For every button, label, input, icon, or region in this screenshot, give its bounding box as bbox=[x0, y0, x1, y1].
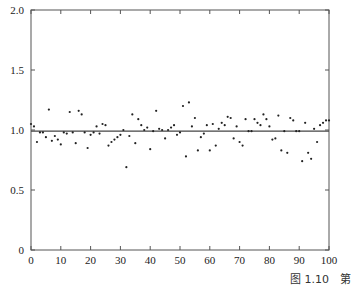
data-point bbox=[164, 137, 166, 139]
data-point bbox=[283, 130, 285, 132]
data-points bbox=[30, 101, 330, 168]
data-point bbox=[286, 152, 288, 154]
data-point bbox=[84, 131, 86, 133]
data-point bbox=[137, 118, 139, 120]
data-point bbox=[313, 128, 315, 130]
data-point bbox=[322, 122, 324, 124]
data-point bbox=[119, 134, 121, 136]
data-point bbox=[191, 125, 193, 127]
data-point bbox=[30, 123, 32, 125]
data-point bbox=[158, 128, 160, 130]
data-point bbox=[203, 133, 205, 135]
data-point bbox=[78, 110, 80, 112]
data-point bbox=[51, 140, 53, 142]
data-point bbox=[128, 135, 130, 137]
data-point bbox=[295, 130, 297, 132]
data-point bbox=[265, 118, 267, 120]
data-point bbox=[292, 119, 294, 121]
data-point bbox=[206, 124, 208, 126]
data-point bbox=[113, 139, 115, 141]
data-point bbox=[72, 131, 74, 133]
data-point bbox=[63, 131, 65, 133]
data-point bbox=[101, 123, 103, 125]
data-point bbox=[149, 148, 151, 150]
data-point bbox=[221, 122, 223, 124]
data-point bbox=[289, 117, 291, 119]
data-point bbox=[161, 129, 163, 131]
data-point bbox=[215, 145, 217, 147]
data-point bbox=[316, 141, 318, 143]
data-point bbox=[256, 122, 258, 124]
data-point bbox=[167, 129, 169, 131]
x-tick-label: 20 bbox=[85, 254, 97, 266]
data-point bbox=[140, 124, 142, 126]
data-point bbox=[280, 149, 282, 151]
y-tick-label: 1.0 bbox=[10, 124, 24, 136]
data-point bbox=[54, 135, 56, 137]
x-tick-label: 50 bbox=[175, 254, 187, 266]
x-tick-label: 60 bbox=[204, 254, 216, 266]
data-point bbox=[92, 131, 94, 133]
data-point bbox=[33, 125, 35, 127]
data-point bbox=[200, 136, 202, 138]
data-point bbox=[134, 142, 136, 144]
data-point bbox=[131, 113, 133, 115]
data-point bbox=[87, 147, 89, 149]
data-point bbox=[182, 105, 184, 107]
data-point bbox=[230, 117, 232, 119]
data-point bbox=[224, 124, 226, 126]
data-point bbox=[48, 109, 50, 111]
x-tick-label: 30 bbox=[115, 254, 127, 266]
y-tick-label: 2.0 bbox=[10, 4, 24, 16]
data-point bbox=[250, 130, 252, 132]
data-point bbox=[98, 133, 100, 135]
data-point bbox=[239, 141, 241, 143]
data-point bbox=[69, 111, 71, 113]
scatter-chart: 010203040506070809010000.51.01.52.0 bbox=[0, 0, 363, 286]
x-tick-label: 70 bbox=[234, 254, 246, 266]
data-point bbox=[81, 113, 83, 115]
data-point bbox=[176, 134, 178, 136]
x-tick-label: 0 bbox=[28, 254, 34, 266]
data-point bbox=[274, 137, 276, 139]
data-point bbox=[95, 125, 97, 127]
data-point bbox=[42, 131, 44, 133]
data-point bbox=[194, 117, 196, 119]
data-point bbox=[307, 152, 309, 154]
data-point bbox=[185, 155, 187, 157]
data-point bbox=[268, 125, 270, 127]
data-point bbox=[39, 131, 41, 133]
data-point bbox=[146, 127, 148, 129]
data-point bbox=[247, 130, 249, 132]
axis-tick-labels: 010203040506070809010000.51.01.52.0 bbox=[10, 4, 338, 266]
data-point bbox=[36, 141, 38, 143]
data-point bbox=[277, 115, 279, 117]
x-tick-label: 80 bbox=[264, 254, 276, 266]
data-point bbox=[188, 101, 190, 103]
data-point bbox=[45, 136, 47, 138]
data-point bbox=[233, 137, 235, 139]
y-tick-label: 0 bbox=[19, 244, 25, 256]
data-point bbox=[155, 110, 157, 112]
axis-ticks bbox=[31, 10, 329, 250]
data-point bbox=[143, 129, 145, 131]
data-point bbox=[60, 143, 62, 145]
plot-border bbox=[31, 10, 329, 250]
data-point bbox=[152, 130, 154, 132]
y-tick-label: 0.5 bbox=[10, 184, 24, 196]
x-tick-label: 40 bbox=[145, 254, 157, 266]
figure-caption: 图 1.10 第 bbox=[290, 270, 351, 286]
data-point bbox=[262, 113, 264, 115]
data-point bbox=[104, 124, 106, 126]
data-point bbox=[125, 166, 127, 168]
data-point bbox=[244, 118, 246, 120]
data-point bbox=[310, 158, 312, 160]
data-point bbox=[328, 119, 330, 121]
data-point bbox=[173, 124, 175, 126]
data-point bbox=[209, 149, 211, 151]
data-point bbox=[227, 116, 229, 118]
data-point bbox=[241, 145, 243, 147]
data-point bbox=[116, 136, 118, 138]
data-point bbox=[325, 119, 327, 121]
data-point bbox=[236, 125, 238, 127]
